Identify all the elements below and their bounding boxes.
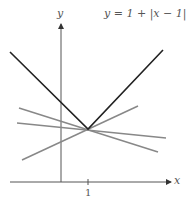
x-axis-label: x bbox=[174, 175, 180, 186]
x-tick-label: 1 bbox=[85, 188, 91, 198]
y-axis-label: y bbox=[57, 8, 63, 19]
abs-function-curve bbox=[10, 50, 163, 129]
function-title: y = 1 + |x − 1| bbox=[104, 8, 186, 19]
plot-canvas bbox=[0, 0, 187, 204]
